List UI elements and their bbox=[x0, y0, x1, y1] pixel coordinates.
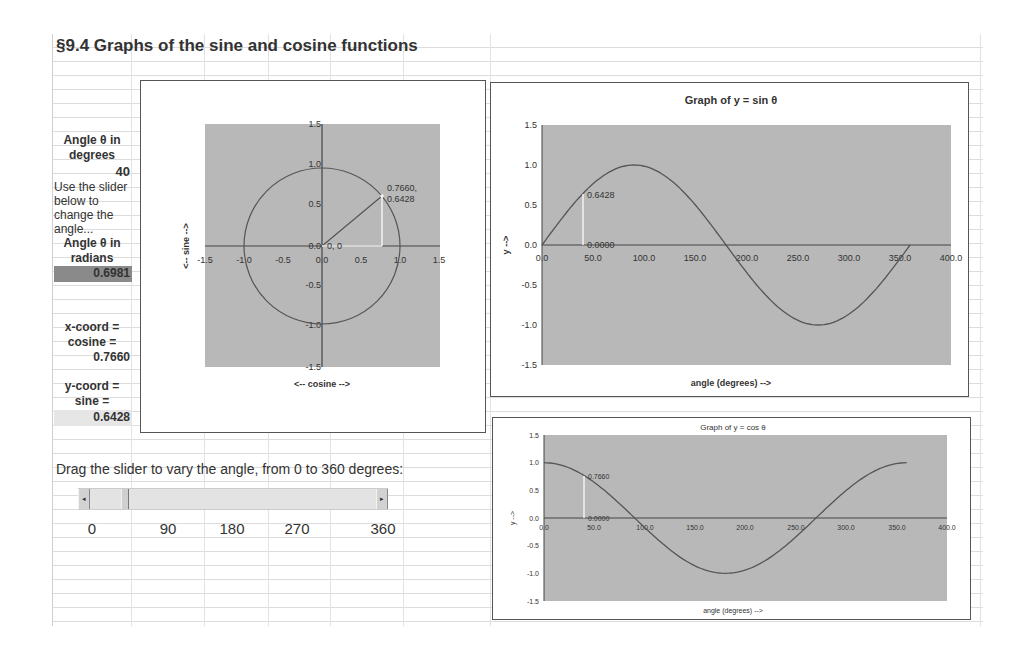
svg-text:0.0: 0.0 bbox=[539, 524, 549, 531]
svg-text:0.7660: 0.7660 bbox=[588, 473, 610, 480]
svg-text:-1.0: -1.0 bbox=[305, 320, 321, 330]
instruction-line: angle... bbox=[54, 222, 130, 237]
slider-right-arrow-button[interactable]: ▸ bbox=[376, 489, 388, 509]
svg-text:250.0: 250.0 bbox=[787, 253, 810, 263]
y-axis-label: y --> bbox=[501, 236, 511, 255]
unit-circle-plot: -1.5 -1.0 -0.5 0.0 0.5 1.0 1.5 1.5 1.0 0… bbox=[141, 81, 485, 432]
svg-text:0.0: 0.0 bbox=[316, 255, 329, 265]
angle-degrees-value[interactable]: 40 bbox=[54, 164, 132, 179]
arrow-right-icon: ▸ bbox=[380, 495, 384, 502]
svg-text:150.0: 150.0 bbox=[686, 524, 704, 531]
slider-tick-label: 90 bbox=[160, 520, 177, 537]
column-divider bbox=[131, 34, 132, 626]
x-axis-label: angle (degrees) --> bbox=[691, 378, 771, 388]
svg-text:1.5: 1.5 bbox=[433, 255, 446, 265]
y-axis-label: y --> bbox=[509, 511, 517, 525]
svg-text:-1.5: -1.5 bbox=[305, 362, 321, 372]
angle-degrees-label-2: degrees bbox=[54, 148, 130, 163]
svg-text:100.0: 100.0 bbox=[633, 253, 656, 263]
slider-left-arrow-button[interactable]: ◂ bbox=[78, 489, 90, 509]
svg-text:-1.5: -1.5 bbox=[527, 598, 539, 605]
page-title: §9.4 Graphs of the sine and cosine funct… bbox=[56, 36, 418, 56]
svg-text:300.0: 300.0 bbox=[837, 524, 855, 531]
svg-text:200.0: 200.0 bbox=[736, 524, 754, 531]
svg-text:-1.0: -1.0 bbox=[521, 320, 537, 330]
slider-tick-label: 360 bbox=[370, 520, 395, 537]
instruction-line: below to bbox=[54, 194, 130, 209]
chart-title: Graph of y = cos θ bbox=[700, 423, 766, 432]
column-divider bbox=[980, 34, 981, 626]
instruction-line: change the bbox=[54, 208, 130, 223]
slider-tick-label: 0 bbox=[88, 520, 96, 537]
angle-degrees-label-1: Angle θ in bbox=[54, 133, 130, 148]
arrow-left-icon: ◂ bbox=[82, 495, 86, 502]
svg-text:1.5: 1.5 bbox=[524, 120, 537, 130]
svg-text:0.0: 0.0 bbox=[524, 240, 537, 250]
svg-text:0.5: 0.5 bbox=[308, 199, 321, 209]
svg-text:1.5: 1.5 bbox=[308, 119, 321, 129]
slider-thumb[interactable] bbox=[121, 489, 129, 509]
svg-text:0, 0: 0, 0 bbox=[327, 241, 342, 251]
svg-text:350.0: 350.0 bbox=[888, 524, 906, 531]
svg-text:150.0: 150.0 bbox=[684, 253, 707, 263]
svg-text:0.0: 0.0 bbox=[536, 253, 549, 263]
svg-text:0.5: 0.5 bbox=[355, 255, 368, 265]
sine-plot: Graph of y = sin θ 1.5 1.0 0.5 0.0 -0.5 … bbox=[491, 83, 968, 396]
svg-text:300.0: 300.0 bbox=[838, 253, 861, 263]
chart-title: Graph of y = sin θ bbox=[685, 94, 777, 106]
angle-radians-value[interactable]: 0.6981 bbox=[54, 266, 132, 282]
svg-text:0.5: 0.5 bbox=[529, 487, 539, 494]
cosine-chart[interactable]: Graph of y = cos θ 1.5 1.0 0.5 0.0 -0.5 … bbox=[492, 417, 971, 620]
svg-text:-1.0: -1.0 bbox=[527, 570, 539, 577]
svg-text:0.0: 0.0 bbox=[308, 241, 321, 251]
svg-text:0.5: 0.5 bbox=[524, 200, 537, 210]
svg-text:0.7660,: 0.7660, bbox=[387, 183, 417, 193]
svg-text:-1.5: -1.5 bbox=[197, 255, 213, 265]
slider-instruction: Drag the slider to vary the angle, from … bbox=[56, 461, 403, 477]
svg-text:50.0: 50.0 bbox=[584, 253, 602, 263]
instruction-line: Use the slider bbox=[54, 180, 130, 195]
x-axis-label: <-- cosine --> bbox=[294, 379, 350, 389]
svg-text:-0.5: -0.5 bbox=[521, 280, 537, 290]
angle-slider[interactable]: ◂ ▸ bbox=[78, 488, 388, 510]
cosine-plot: Graph of y = cos θ 1.5 1.0 0.5 0.0 -0.5 … bbox=[493, 418, 970, 619]
svg-text:1.5: 1.5 bbox=[529, 432, 539, 439]
x-coord-value[interactable]: 0.7660 bbox=[54, 350, 132, 365]
svg-text:250.0: 250.0 bbox=[787, 524, 805, 531]
svg-text:0.6428: 0.6428 bbox=[387, 194, 415, 204]
svg-text:400.0: 400.0 bbox=[938, 524, 956, 531]
svg-text:0.0000: 0.0000 bbox=[588, 515, 610, 522]
svg-text:-1.5: -1.5 bbox=[521, 360, 537, 370]
slider-tick-label: 180 bbox=[219, 520, 244, 537]
sine-chart[interactable]: Graph of y = sin θ 1.5 1.0 0.5 0.0 -0.5 … bbox=[490, 82, 969, 397]
svg-text:200.0: 200.0 bbox=[736, 253, 759, 263]
svg-text:-1.0: -1.0 bbox=[236, 255, 252, 265]
svg-text:400.0: 400.0 bbox=[940, 253, 963, 263]
svg-text:1.0: 1.0 bbox=[529, 459, 539, 466]
angle-radians-label-1: Angle θ in bbox=[54, 236, 130, 251]
unit-circle-chart[interactable]: -1.5 -1.0 -0.5 0.0 0.5 1.0 1.5 1.5 1.0 0… bbox=[140, 80, 486, 433]
svg-text:-0.5: -0.5 bbox=[275, 255, 291, 265]
svg-text:-0.5: -0.5 bbox=[305, 280, 321, 290]
svg-text:0.6428: 0.6428 bbox=[587, 190, 615, 200]
svg-text:0.0000: 0.0000 bbox=[587, 240, 615, 250]
y-coord-label-1: y-coord = bbox=[54, 379, 130, 394]
x-coord-label-1: x-coord = bbox=[54, 320, 130, 335]
svg-text:1.0: 1.0 bbox=[394, 255, 407, 265]
y-coord-value[interactable]: 0.6428 bbox=[54, 410, 132, 426]
svg-text:0.0: 0.0 bbox=[529, 515, 539, 522]
angle-radians-label-2: radians bbox=[54, 251, 130, 266]
slider-tick-label: 270 bbox=[284, 520, 309, 537]
y-axis-label: <-- sine --> bbox=[181, 223, 191, 269]
y-coord-label-2: sine = bbox=[54, 394, 130, 409]
x-axis-label: angle (degrees) --> bbox=[703, 607, 763, 615]
svg-text:-0.5: -0.5 bbox=[527, 542, 539, 549]
x-coord-label-2: cosine = bbox=[54, 335, 130, 350]
svg-text:50.0: 50.0 bbox=[587, 524, 601, 531]
svg-text:1.0: 1.0 bbox=[524, 160, 537, 170]
